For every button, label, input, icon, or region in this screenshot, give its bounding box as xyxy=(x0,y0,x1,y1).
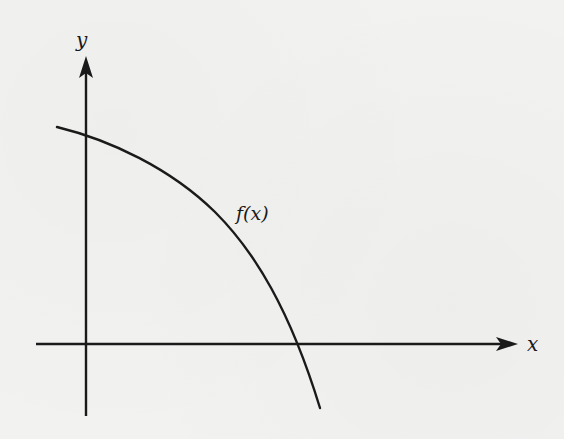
curve-label: f(x) xyxy=(236,204,269,223)
x-axis-label: x xyxy=(527,334,538,354)
plot-area xyxy=(0,0,564,439)
curve-f-of-x xyxy=(57,127,320,408)
y-axis-label: y xyxy=(76,30,87,50)
